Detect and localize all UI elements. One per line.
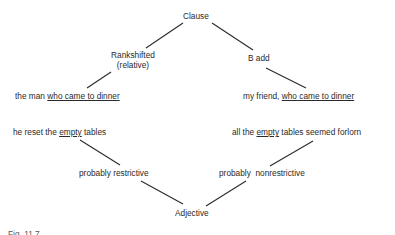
example-right-bottom-post: tables seemed forlorn (279, 127, 361, 137)
node-rankshifted-line2: (relative) (103, 60, 163, 70)
edge-rankshifted-example (87, 72, 111, 88)
example-right-bottom-underlined: empty (256, 127, 279, 137)
edge-clause-badd (212, 23, 253, 50)
example-left-bottom-pre: he reset the (13, 127, 59, 137)
example-left-top-plain: the man (15, 91, 47, 101)
example-left-top-underlined: who came to dinner (47, 91, 119, 101)
node-rankshifted: Rankshifted (relative) (103, 50, 163, 70)
node-adjective: Adjective (175, 208, 209, 218)
figure-caption: Fig. 11.7 (8, 229, 40, 235)
example-left-bottom-post: tables (82, 127, 106, 137)
example-right-bottom: all the empty tables seemed forlorn (232, 127, 361, 137)
example-right-top: my friend, who came to dinner (243, 91, 354, 101)
edge-left-example-restrictive (80, 140, 120, 165)
edge-restrictive-adjective (141, 181, 183, 204)
edge-clause-rankshifted (146, 23, 183, 48)
node-rankshifted-line1: Rankshifted (103, 50, 163, 60)
example-right-top-plain: my friend, (243, 91, 282, 101)
example-right-bottom-pre: all the (232, 127, 256, 137)
node-probably-restrictive: probably restrictive (79, 168, 149, 178)
example-left-top: the man who came to dinner (15, 91, 120, 101)
example-left-bottom: he reset the empty tables (13, 127, 106, 137)
edge-right-example-nonrestrictive (270, 141, 313, 166)
edge-badd-example (266, 68, 306, 88)
node-b-add: B add (248, 53, 270, 63)
node-clause: Clause (183, 11, 209, 21)
node-probably-nonrestrictive: probably nonrestrictive (219, 168, 305, 178)
diagram-edges (0, 0, 395, 235)
edge-nonrestrictive-adjective (206, 181, 246, 206)
example-right-top-underlined: who came to dinner (282, 91, 354, 101)
example-left-bottom-underlined: empty (59, 127, 82, 137)
